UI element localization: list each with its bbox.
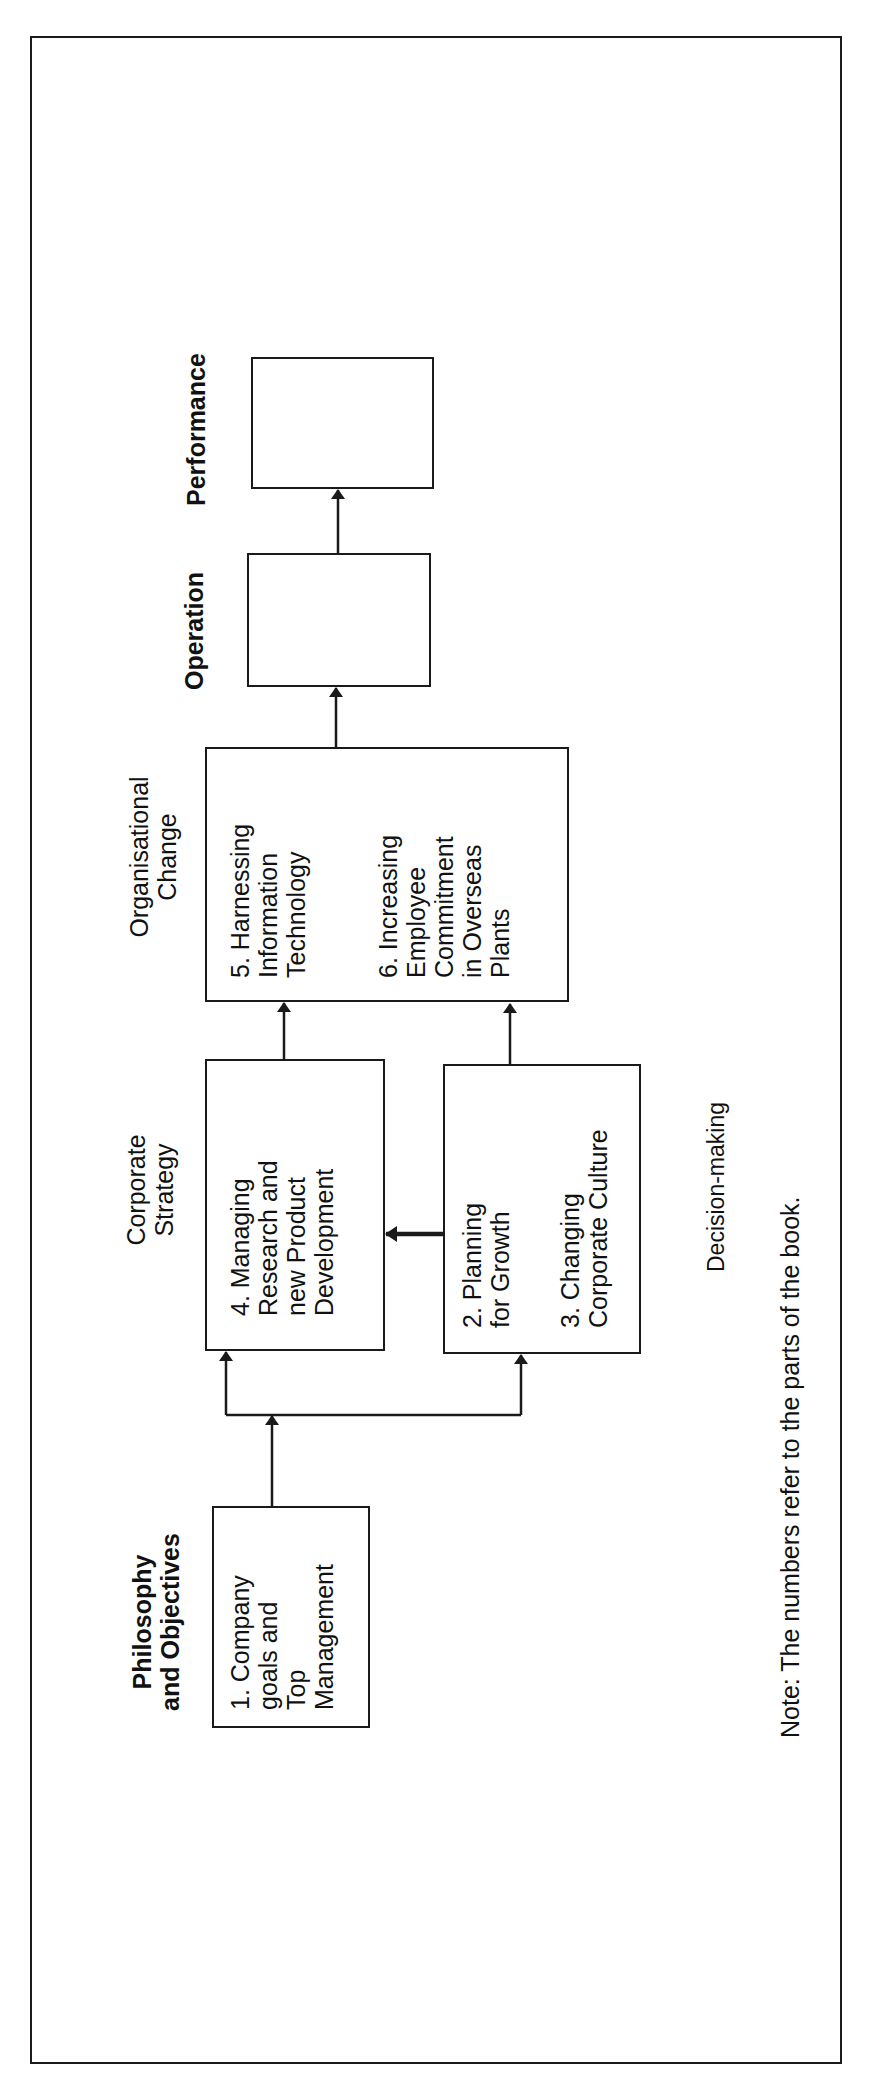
box-planning-growth-text: 2. Planning for Growth — [458, 1068, 514, 1328]
heading-operation: Operation — [180, 530, 208, 690]
box-managing-research-text: 4. Managing Research and new Product Dev… — [226, 1056, 338, 1316]
box-performance — [251, 357, 434, 489]
diagram-frame — [30, 36, 842, 2064]
heading-performance: Performance — [182, 316, 210, 506]
note-text: Note: The numbers refer to the parts of … — [776, 1018, 804, 1738]
label-decision-making: Decision-making — [704, 1052, 730, 1272]
box-harnessing-it-text: 5. Harnessing Information Technology — [226, 778, 310, 978]
heading-philosophy: Philosophy and Objectives — [128, 1506, 184, 1738]
box-employee-commitment-text: 6. Increasing Employee Commitment in Ove… — [374, 778, 514, 978]
heading-organisational-change: Organisational Change — [125, 752, 181, 962]
box-changing-culture-text: 3. Changing Corporate Culture — [556, 1048, 612, 1328]
heading-corporate-strategy: Corporate Strategy — [122, 1110, 178, 1270]
box-company-goals-text: 1. Company goals and Top Management — [226, 1510, 338, 1710]
box-operation — [247, 553, 431, 687]
